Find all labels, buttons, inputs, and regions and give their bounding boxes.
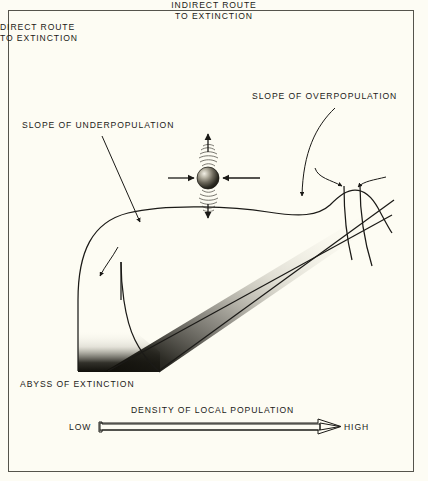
leader-indirect-right (358, 177, 386, 187)
leader-underpopulation (102, 136, 140, 222)
label-slope-overpopulation: SLOPE OF OVERPOPULATION (252, 91, 397, 102)
equilibrium-group (168, 134, 260, 218)
leader-direct (100, 247, 118, 276)
sphere-icon (197, 167, 219, 189)
label-axis-high: HIGH (344, 422, 369, 433)
terrain-shading (78, 198, 392, 372)
label-direct-route-line1: DIRECT ROUTE (0, 22, 428, 33)
label-axis-low: LOW (69, 422, 91, 433)
label-abyss-of-extinction: ABYSS OF EXTINCTION (20, 379, 135, 390)
label-density-axis-caption: DENSITY OF LOCAL POPULATION (131, 405, 294, 416)
valley-lower-diagonal (108, 215, 392, 371)
leader-indirect-left (315, 168, 342, 186)
ridge-crest-line (78, 190, 355, 300)
density-axis (99, 419, 341, 434)
valley-upper-diagonal (160, 200, 394, 370)
leader-lines (100, 108, 386, 276)
label-indirect-route-line2: TO EXTINCTION (0, 11, 428, 22)
label-direct-route-line2: TO EXTINCTION (0, 33, 428, 44)
label-direct-route: DIRECT ROUTE TO EXTINCTION (0, 22, 428, 44)
leader-overpopulation (302, 108, 335, 196)
label-indirect-route: INDIRECT ROUTE TO EXTINCTION (0, 0, 428, 22)
axis-arrow-outline (100, 419, 341, 434)
figure-page: SLOPE OF UNDERPOPULATION SLOPE OF OVERPO… (0, 0, 428, 481)
valley-fill (104, 198, 392, 372)
label-indirect-route-line1: INDIRECT ROUTE (0, 0, 428, 11)
label-slope-underpopulation: SLOPE OF UNDERPOPULATION (22, 120, 174, 131)
